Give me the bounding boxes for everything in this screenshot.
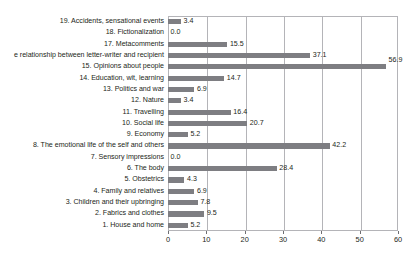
- bar-value-label: 0.0: [171, 152, 181, 163]
- category-label: 3. Children and their upbringing: [0, 197, 164, 208]
- category-label: 14. Education, wit, learning: [0, 73, 164, 84]
- bar-value-label: 37.1: [313, 50, 327, 61]
- bar-value-label: 56.9: [389, 55, 403, 66]
- bar-value-label: 7.8: [200, 197, 210, 208]
- category-label: e relationship between letter-writer and…: [0, 50, 164, 61]
- bar-value-label: 4.3: [187, 174, 197, 185]
- bar-row: 12. Nature3.4: [0, 95, 410, 106]
- category-label: 7. Sensory impressions: [0, 152, 164, 163]
- bar[interactable]: [168, 42, 227, 47]
- bar-row: 1. House and home5.2: [0, 220, 410, 231]
- category-label: 11. Travelling: [0, 107, 164, 118]
- x-tick-20: [245, 231, 246, 234]
- bar-row: 11. Travelling16.4: [0, 107, 410, 118]
- bar[interactable]: [168, 223, 188, 228]
- x-tick-30: [283, 231, 284, 234]
- bar-track: 4.3: [168, 174, 398, 185]
- bar-row: 15. Opinions about people56.9: [0, 61, 410, 72]
- bar-value-label: 28.4: [279, 163, 293, 174]
- x-tick-label: 40: [309, 235, 333, 245]
- bar-track: 14.7: [168, 73, 398, 84]
- bar-track: 6.9: [168, 186, 398, 197]
- bar-value-label: 42.2: [332, 140, 346, 151]
- category-label: 12. Nature: [0, 95, 164, 106]
- bar[interactable]: [168, 64, 386, 69]
- bar-track: 37.1: [168, 50, 398, 61]
- x-axis: 0102030405060: [168, 231, 398, 254]
- bar-track: 0.0: [168, 152, 398, 163]
- x-tick-label: 10: [194, 235, 218, 245]
- x-tick-40: [321, 231, 322, 234]
- bar-row: 9. Economy5.2: [0, 129, 410, 140]
- bar-row: 6. The body28.4: [0, 163, 410, 174]
- bar-value-label: 20.7: [250, 118, 264, 129]
- bar-value-label: 6.9: [197, 84, 207, 95]
- bar[interactable]: [168, 177, 184, 182]
- bar-row: 8. The emotional life of the self and ot…: [0, 140, 410, 151]
- x-tick-label: 50: [348, 235, 372, 245]
- bar-track: 15.5: [168, 39, 398, 50]
- bar-row: 7. Sensory impressions0.0: [0, 152, 410, 163]
- bar-row: 14. Education, wit, learning14.7: [0, 73, 410, 84]
- bar-value-label: 6.9: [197, 186, 207, 197]
- bar[interactable]: [168, 76, 224, 81]
- bar-row: 10. Social life20.7: [0, 118, 410, 129]
- bar-track: 16.4: [168, 107, 398, 118]
- bar-row: 13. Politics and war6.9: [0, 84, 410, 95]
- bar-track: 9.5: [168, 208, 398, 219]
- bar-value-label: 9.5: [207, 208, 217, 219]
- bar-value-label: 0.0: [171, 27, 181, 38]
- bar[interactable]: [168, 110, 231, 115]
- bar-value-label: 5.2: [190, 129, 200, 140]
- bar[interactable]: [168, 19, 181, 24]
- category-label: 10. Social life: [0, 118, 164, 129]
- x-tick-0: [168, 231, 169, 234]
- bar[interactable]: [168, 189, 194, 194]
- bar[interactable]: [168, 87, 194, 92]
- category-label: 6. The body: [0, 163, 164, 174]
- category-label: 18. Fictionalization: [0, 27, 164, 38]
- bar[interactable]: [168, 121, 247, 126]
- bar-rows: 19. Accidents, sensational events3.418. …: [0, 16, 410, 231]
- bar[interactable]: [168, 200, 198, 205]
- bar-value-label: 3.4: [184, 95, 194, 106]
- category-label: 1. House and home: [0, 220, 164, 231]
- bar-track: 42.2: [168, 140, 398, 151]
- x-tick-label: 60: [386, 235, 410, 245]
- bar-row: 19. Accidents, sensational events3.4: [0, 16, 410, 27]
- bar-row: 4. Family and relatives6.9: [0, 186, 410, 197]
- bar-row: 18. Fictionalization0.0: [0, 27, 410, 38]
- bar-row: 3. Children and their upbringing7.8: [0, 197, 410, 208]
- category-label: 9. Economy: [0, 129, 164, 140]
- bar-track: 20.7: [168, 118, 398, 129]
- bar-track: 3.4: [168, 95, 398, 106]
- category-label: 2. Fabrics and clothes: [0, 208, 164, 219]
- bar-row: 2. Fabrics and clothes9.5: [0, 208, 410, 219]
- x-tick-label: 20: [233, 235, 257, 245]
- bar-value-label: 15.5: [230, 39, 244, 50]
- bar[interactable]: [168, 143, 330, 148]
- bar[interactable]: [168, 53, 310, 58]
- bar[interactable]: [168, 132, 188, 137]
- bar-track: 6.9: [168, 84, 398, 95]
- bar-track: 3.4: [168, 16, 398, 27]
- category-label: 8. The emotional life of the self and ot…: [0, 140, 164, 151]
- category-label: 17. Metacomments: [0, 39, 164, 50]
- category-label: 13. Politics and war: [0, 84, 164, 95]
- bar-row: 17. Metacomments15.5: [0, 39, 410, 50]
- category-label: 19. Accidents, sensational events: [0, 16, 164, 27]
- bar-track: 7.8: [168, 197, 398, 208]
- x-tick-10: [206, 231, 207, 234]
- x-tick-label: 30: [271, 235, 295, 245]
- bar-value-label: 16.4: [233, 107, 247, 118]
- x-tick-label: 0: [156, 235, 180, 245]
- bar-row: e relationship between letter-writer and…: [0, 50, 410, 61]
- bar[interactable]: [168, 98, 181, 103]
- bar[interactable]: [168, 166, 277, 171]
- bar-track: 56.9: [168, 61, 398, 72]
- bar-track: 28.4: [168, 163, 398, 174]
- bar[interactable]: [168, 211, 204, 216]
- bar-track: 5.2: [168, 220, 398, 231]
- x-tick-50: [360, 231, 361, 234]
- bar-track: 0.0: [168, 27, 398, 38]
